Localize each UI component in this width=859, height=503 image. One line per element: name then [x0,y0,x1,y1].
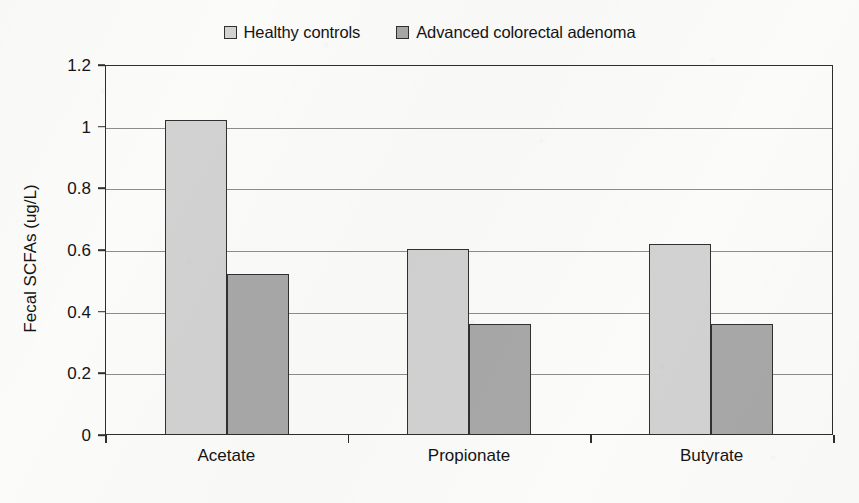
y-axis-tick-mark [98,64,105,66]
y-axis: 00.20.40.60.811.2 [0,0,105,503]
y-axis-tick-mark [98,126,105,128]
y-axis-tick-mark [98,249,105,251]
bar-group [106,66,348,434]
bar-propionate-series-1 [469,324,531,434]
bar-group [590,66,832,434]
y-axis-tick-label: 0.8 [67,180,91,197]
bar-acetate-series-1 [227,274,289,434]
x-axis-tick-mark [348,435,350,443]
y-axis-title: Fecal SCFAs (ug/L) [22,144,39,374]
x-axis: AcetatePropionateButyrate [105,447,833,464]
bar-butyrate-series-1 [711,324,773,434]
y-axis-tick-label: 1.2 [67,57,91,74]
plot-area [105,65,833,435]
legend-item-advanced-colorectal-adenoma: Advanced colorectal adenoma [396,24,635,41]
bar-group [348,66,590,434]
legend-label-series-0: Healthy controls [244,24,361,41]
y-axis-tick-label: 0.4 [67,303,91,320]
legend-label-series-1: Advanced colorectal adenoma [416,24,635,41]
y-axis-tick-label: 0.2 [67,365,91,382]
x-axis-tick-label: Acetate [105,447,348,464]
y-axis-tick-label: 0.6 [67,242,91,259]
x-axis-tick-label: Butyrate [590,447,833,464]
bar-chart-figure: Healthy controls Advanced colorectal ade… [0,0,859,503]
x-axis-tick-mark [105,435,107,443]
y-axis-tick-mark [98,373,105,375]
bar-propionate-series-0 [407,249,469,434]
chart-legend: Healthy controls Advanced colorectal ade… [0,24,859,41]
legend-item-healthy-controls: Healthy controls [224,24,361,41]
y-axis-tick-label: 0 [82,427,91,444]
legend-swatch-icon-series-0 [224,26,237,39]
y-axis-tick-mark [98,311,105,313]
y-axis-tick-mark [98,188,105,190]
x-axis-tick-mark [833,435,835,443]
legend-swatch-icon-series-1 [396,26,409,39]
bar-butyrate-series-0 [649,244,711,434]
bar-acetate-series-0 [165,120,227,435]
y-axis-tick-mark [98,434,105,436]
y-axis-tick-label: 1 [82,118,91,135]
x-axis-tick-label: Propionate [348,447,591,464]
x-axis-tick-mark [590,435,592,443]
bars-layer [106,66,832,434]
